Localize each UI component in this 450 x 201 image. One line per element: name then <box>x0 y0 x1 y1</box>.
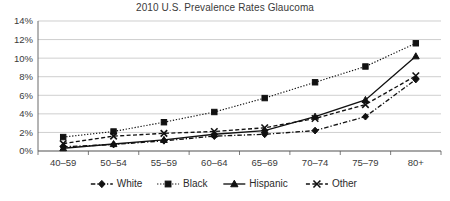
y-axis-tick-label: 2% <box>19 127 33 138</box>
chart-plot-area: 0%2%4%6%8%10%12%14% 40–5950–5455–5960–64… <box>0 0 450 201</box>
x-axis-tick-label: 50–54 <box>100 157 126 168</box>
chart-title: 2010 U.S. Prevalence Rates Glaucoma <box>0 2 450 13</box>
y-axis-tick-label: 8% <box>19 71 33 82</box>
legend-label-other: Other <box>332 178 358 189</box>
x-axis-tick-labels: 40–5950–5455–5960–6465–6970–7475–7980+ <box>50 157 424 168</box>
y-axis-tick-label: 6% <box>19 90 33 101</box>
legend-marker-diamond-icon <box>98 180 105 187</box>
glaucoma-prevalence-chart: 2010 U.S. Prevalence Rates Glaucoma 0%2%… <box>0 0 450 201</box>
y-axis-tick-label: 0% <box>19 145 33 156</box>
x-axis-tick-label: 60–64 <box>201 157 227 168</box>
chart-legend: WhiteBlackHispanicOther <box>91 178 358 189</box>
data-point-white-70–74 <box>312 127 318 134</box>
x-axis-tick-label: 65–69 <box>251 157 277 168</box>
data-point-black-80+ <box>413 41 418 46</box>
legend-label-black: Black <box>183 178 208 189</box>
data-series-layer <box>60 41 419 151</box>
series-line-black <box>63 43 416 137</box>
data-point-black-70–74 <box>312 80 317 85</box>
legend-label-white: White <box>117 178 143 189</box>
x-axis-tick-label: 70–74 <box>302 157 328 168</box>
legend-marker-square-icon <box>165 181 171 187</box>
series-line-white <box>63 80 416 147</box>
x-axis-tick-label: 40–59 <box>50 157 76 168</box>
legend-item-hispanic[interactable]: Hispanic <box>223 178 287 189</box>
legend-item-white[interactable]: White <box>91 178 143 189</box>
legend-item-black[interactable]: Black <box>157 178 208 189</box>
data-point-black-75–79 <box>363 64 368 69</box>
y-axis-tick-label: 14% <box>14 15 34 26</box>
y-axis-tick-label: 10% <box>14 53 34 64</box>
x-axis-tick-label: 80+ <box>408 157 425 168</box>
data-point-black-40–59 <box>60 134 65 139</box>
x-axis-tick-label: 75–79 <box>352 157 378 168</box>
data-point-black-65–69 <box>262 95 267 100</box>
y-axis-tick-labels: 0%2%4%6%8%10%12%14% <box>14 15 34 156</box>
data-point-black-60–64 <box>212 109 217 114</box>
data-point-black-55–59 <box>161 120 166 125</box>
series-white <box>60 76 419 150</box>
legend-item-other[interactable]: Other <box>306 178 358 189</box>
y-axis-tick-label: 12% <box>14 34 34 45</box>
y-axis-tick-label: 4% <box>19 108 33 119</box>
legend-label-hispanic: Hispanic <box>249 178 287 189</box>
data-point-hispanic-80+ <box>412 53 419 59</box>
x-axis-tick-label: 55–59 <box>151 157 177 168</box>
series-black <box>60 41 418 140</box>
